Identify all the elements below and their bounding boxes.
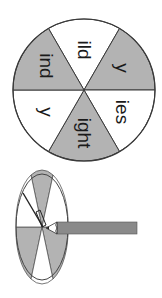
wheel-label-y-lower: y — [36, 107, 57, 117]
wheel-label-ight: ight — [74, 118, 95, 149]
wheel-label-y-upper: y — [112, 63, 133, 73]
word-wheel: ild y ies ight y ind — [13, 19, 155, 161]
wheel-label-ies: ies — [112, 100, 133, 124]
spinner-illustration — [16, 170, 137, 284]
wheel-label-ind: ind — [36, 53, 57, 78]
pencil-icon — [46, 222, 137, 234]
word-wheel-diagram: ild y ies ight y ind — [0, 0, 162, 298]
wheel-label-ild: ild — [74, 40, 95, 59]
